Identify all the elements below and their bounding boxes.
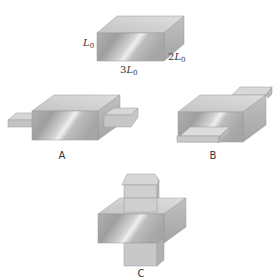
front-bar-front xyxy=(177,136,219,142)
back-bar-top xyxy=(232,87,272,95)
variant-label-a: A xyxy=(59,150,66,161)
block-front-face xyxy=(32,111,98,140)
left-bar-top xyxy=(8,113,34,120)
left-bar-front xyxy=(8,120,32,127)
reference-block: L0 3L0 2L0 xyxy=(82,16,185,77)
variant-label-c: C xyxy=(138,268,145,279)
variant-c: C xyxy=(98,174,186,279)
width-label: 3L0 xyxy=(120,64,137,77)
depth-label: 2L0 xyxy=(168,51,185,64)
bottom-bar-side xyxy=(157,238,164,266)
height-label: L0 xyxy=(82,37,94,50)
variant-b: B xyxy=(177,87,272,161)
variant-a: A xyxy=(8,95,138,161)
block-front-face xyxy=(98,214,164,243)
bottom-bar-front xyxy=(124,243,157,266)
block-front-face xyxy=(97,33,164,61)
top-bar-roof xyxy=(122,174,159,185)
diagram-canvas: L0 3L0 2L0 A B xyxy=(0,0,280,280)
variant-label-b: B xyxy=(210,150,217,161)
top-bar-front-overlap xyxy=(124,198,157,212)
